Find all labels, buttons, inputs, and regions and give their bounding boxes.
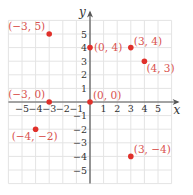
data-point-label: (−4, −2) xyxy=(12,130,58,142)
y-tick-label: 1 xyxy=(81,83,87,94)
x-tick-label: 1 xyxy=(101,103,107,114)
y-axis-label: y xyxy=(78,5,86,19)
data-point xyxy=(87,45,93,51)
data-point-label: (0, 4) xyxy=(94,41,122,53)
x-tick-label: −4 xyxy=(29,103,43,114)
y-tick-label: −4 xyxy=(73,151,87,162)
x-axis-label: x xyxy=(174,103,181,117)
data-point xyxy=(46,99,52,105)
y-tick-label: −1 xyxy=(73,110,87,121)
data-point xyxy=(128,154,134,160)
x-tick-label: −5 xyxy=(15,103,29,114)
y-tick-label: −3 xyxy=(73,137,87,148)
coordinate-plane: −5−4−3−2−112345−5−4−3−2−112345 (−3, 5)(0… xyxy=(0,0,193,195)
x-tick-label: 3 xyxy=(128,103,134,114)
y-tick-label: 5 xyxy=(81,29,87,40)
y-tick-label: −2 xyxy=(73,124,87,135)
data-point-label: (−3, 0) xyxy=(8,88,45,100)
data-point-label: (0, 0) xyxy=(93,89,121,101)
y-tick-label: −5 xyxy=(73,165,87,176)
y-tick-label: 3 xyxy=(81,56,87,67)
data-point xyxy=(128,45,134,51)
data-point-label: (4, 3) xyxy=(146,62,174,74)
x-tick-label: 5 xyxy=(155,103,161,114)
data-point-label: (3, −4) xyxy=(134,143,171,155)
y-tick-label: 4 xyxy=(81,42,87,53)
data-points: (−3, 5)(0, 4)(3, 4)(4, 3)(−3, 0)(0, 0)(−… xyxy=(8,20,174,159)
data-point xyxy=(87,99,93,105)
x-tick-label: −2 xyxy=(56,103,70,114)
data-point xyxy=(46,31,52,37)
data-point-label: (−3, 5) xyxy=(8,20,45,32)
y-tick-label: 2 xyxy=(81,69,87,80)
x-tick-label: 4 xyxy=(141,103,147,114)
data-point-label: (3, 4) xyxy=(134,35,162,47)
x-tick-label: 2 xyxy=(114,103,120,114)
